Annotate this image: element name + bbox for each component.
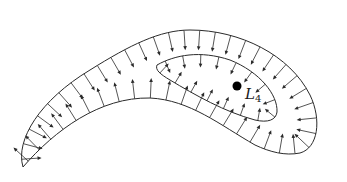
- normal-vector-shaft: [297, 103, 313, 109]
- normal-vector-shaft: [275, 64, 286, 77]
- normal-vector-shaft: [264, 133, 270, 149]
- normal-vector-shaft: [196, 95, 203, 110]
- outer-boundary-curve: [22, 30, 317, 167]
- normal-vector-shaft: [226, 35, 230, 51]
- normal-vector-shaft: [199, 30, 200, 47]
- normal-vector-shaft: [71, 83, 81, 97]
- normal-vector-shaft: [153, 37, 159, 53]
- label-subscript: 4: [255, 93, 261, 104]
- arrowhead-icon: [294, 106, 298, 109]
- normal-vector-shaft: [299, 130, 316, 134]
- label-main: L: [244, 85, 255, 103]
- normal-vector-shaft: [217, 57, 219, 67]
- point-l4-marker: [233, 82, 242, 91]
- normal-vector-shaft: [267, 111, 275, 117]
- arrowhead-icon: [242, 103, 245, 107]
- normal-vector-shaft: [98, 90, 104, 106]
- normal-vector-shaft: [59, 93, 70, 106]
- normal-vector-shaft: [133, 82, 135, 99]
- normal-vector-shaft: [232, 63, 236, 72]
- arrowhead-icon: [97, 88, 100, 92]
- normal-vector-shaft: [168, 32, 172, 49]
- normal-vector-shaft: [37, 116, 51, 126]
- arrowhead-icon: [280, 133, 284, 137]
- arrowhead-icon: [157, 51, 160, 55]
- arrowhead-icon: [197, 46, 201, 50]
- normal-vector-shaft: [258, 111, 260, 121]
- arrowhead-icon: [131, 79, 135, 83]
- normal-vector-shaft: [300, 118, 317, 120]
- normal-vector-shaft: [279, 136, 282, 153]
- arrowhead-icon: [182, 64, 186, 68]
- normal-vector-shaft: [29, 129, 44, 137]
- normal-vector-shaft: [111, 57, 120, 72]
- normal-vector-shaft: [265, 100, 274, 104]
- arrowhead-icon: [199, 64, 203, 68]
- arrowhead-icon: [91, 86, 95, 90]
- normal-vector-shaft: [150, 81, 151, 98]
- normal-vector-shaft: [223, 111, 232, 126]
- normal-vector-shaft: [84, 74, 93, 88]
- arrowhead-icon: [149, 78, 153, 82]
- arrowhead-icon: [262, 67, 266, 71]
- normal-vector-shaft: [240, 40, 246, 56]
- arrowhead-icon: [268, 130, 271, 134]
- normal-vector-shaft: [97, 65, 106, 80]
- normal-vector-shaft: [240, 106, 243, 115]
- arrowhead-icon: [211, 48, 215, 52]
- normal-vector-shaft: [27, 138, 39, 150]
- arrowhead-icon: [292, 134, 296, 138]
- normal-vector-shaft: [292, 88, 307, 97]
- normal-vector-shaft: [184, 30, 185, 47]
- arrowhead-icon: [225, 50, 228, 54]
- normal-vector-shaft: [175, 74, 180, 83]
- arrowhead-icon: [183, 46, 187, 50]
- normal-vector-shaft: [115, 85, 119, 101]
- normal-vector-shaft: [250, 127, 259, 142]
- point-l4-label: L4: [244, 85, 261, 104]
- normal-vector-shaft: [191, 83, 196, 92]
- normal-vector-shaft: [246, 72, 252, 80]
- arrowhead-icon: [170, 48, 174, 52]
- arrowhead-icon: [215, 65, 219, 69]
- normal-vector-shaft: [207, 92, 212, 101]
- arrowhead-icon: [297, 118, 301, 122]
- normal-vector-shaft: [237, 119, 246, 133]
- inner-normal-arrows: [160, 55, 275, 121]
- outer-normal-arrows: [13, 30, 316, 161]
- arrowhead-icon: [167, 80, 171, 84]
- boundary-normal-diagram: L4: [0, 0, 347, 182]
- arrowhead-icon: [114, 82, 117, 86]
- normal-vector-shaft: [160, 66, 167, 73]
- normal-vector-shaft: [293, 137, 295, 154]
- normal-vector-shaft: [252, 47, 260, 62]
- arrowhead-icon: [244, 78, 248, 82]
- normal-vector-shaft: [82, 98, 90, 113]
- arrowhead-icon: [296, 128, 300, 132]
- normal-vector-shaft: [67, 106, 76, 120]
- normal-vector-shaft: [166, 83, 169, 100]
- arrowhead-icon: [263, 101, 267, 104]
- arrowhead-icon: [49, 124, 53, 128]
- normal-vector-shaft: [297, 136, 309, 148]
- normal-vector-shaft: [213, 32, 216, 49]
- normal-vector-shaft: [258, 84, 266, 91]
- arrowhead-icon: [37, 156, 41, 160]
- normal-vector-shaft: [284, 76, 297, 87]
- arrowhead-icon: [238, 55, 241, 59]
- normal-vector-shaft: [48, 104, 60, 116]
- normal-vector-shaft: [125, 50, 133, 65]
- normal-vector-shaft: [264, 55, 274, 69]
- normal-vector-shaft: [183, 56, 185, 66]
- normal-vector-shaft: [181, 88, 187, 104]
- normal-vector-shaft: [139, 43, 146, 58]
- normal-vector-shaft: [223, 99, 227, 108]
- arrowhead-icon: [258, 108, 262, 112]
- normal-vector-shaft: [53, 116, 63, 130]
- arrowhead-icon: [51, 113, 55, 117]
